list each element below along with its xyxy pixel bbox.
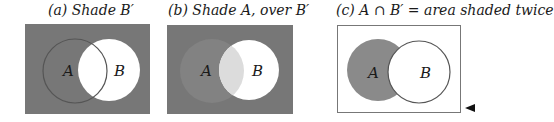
- panel-a: A B: [25, 24, 150, 114]
- label-a-b: A: [199, 62, 212, 80]
- label-b-a: B: [113, 62, 125, 80]
- circle-b-c: [388, 41, 450, 103]
- label-b-b: B: [251, 62, 263, 80]
- label-b-c: B: [419, 64, 431, 82]
- pointer-arrow-icon: [465, 104, 475, 112]
- label-a-a: A: [61, 62, 74, 80]
- panel-c: A B: [338, 26, 461, 113]
- panel-b: A B: [167, 25, 293, 114]
- label-a-c: A: [366, 64, 379, 82]
- circle-b-a: [78, 39, 140, 101]
